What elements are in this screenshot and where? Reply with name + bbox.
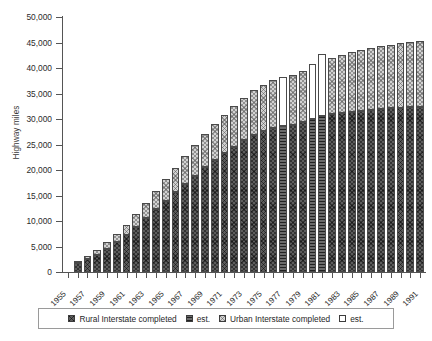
bar-segment-rural-done [289,125,297,272]
bar-segment-urban-done [132,214,140,227]
bar-segment-urban-done [201,134,209,168]
x-axis-label: 1959 [88,289,107,308]
bar-column [318,17,326,272]
x-axis-tick [273,273,274,278]
x-axis-tick [224,273,225,278]
x-axis-label: 1979 [284,289,303,308]
y-axis-tick [56,170,62,171]
legend-label: est. [197,314,210,324]
bar-segment-urban-done [338,55,346,113]
y-axis-tick [56,94,62,95]
x-axis-label: 1963 [127,289,146,308]
bar-column [299,17,307,272]
bar-segment-rural-done [328,114,336,272]
bar-column [250,17,258,272]
bar-segment-urban-done [357,50,365,111]
bar-column [142,17,150,272]
bar-segment-rural-done [123,235,131,272]
bar-segment-urban-done [240,98,248,140]
legend-swatch-rural-done [68,315,75,322]
bar-segment-rural-done [84,259,92,272]
y-axis-tick [56,17,62,18]
bar-segment-rural-done [299,122,307,272]
bar-column [230,17,238,272]
bar-segment-urban-done [142,203,150,218]
x-axis-tick [401,273,402,278]
bar-segment-urban-done [260,85,268,131]
x-axis-label: 1991 [401,289,420,308]
bar-segment-rural-done [93,255,101,272]
x-axis-label: 1989 [381,289,400,308]
legend-swatch-rural-est [186,315,193,322]
bar-segment-rural-done [162,201,170,272]
bar-segment-urban-done [328,58,336,115]
y-axis-tick [56,221,62,222]
y-axis-label: 25,000 [0,139,52,149]
bar-column [348,17,356,272]
x-axis-tick [391,273,392,278]
legend-swatch-urban-est [339,315,346,322]
bar-segment-rural-done [113,242,121,272]
x-axis-label: 1985 [342,289,361,308]
x-axis-tick [176,273,177,278]
bar-segment-urban-done [172,168,180,192]
x-axis-label: 1983 [323,289,342,308]
bar-segment-urban-done [367,48,375,110]
bar-segment-urban-done [387,45,395,108]
bar-segment-rural-done [142,218,150,272]
bar-column [152,17,160,272]
bar-segment-rural-done [181,184,189,272]
x-axis-tick [78,273,79,278]
bar-column [289,17,297,272]
x-axis-tick [283,273,284,278]
x-axis-tick [381,273,382,278]
x-axis-tick [127,273,128,278]
bar-column [211,17,219,272]
bar-segment-rural-done [152,209,160,272]
bar-column [338,17,346,272]
x-axis-tick [342,273,343,278]
bar-column [191,17,199,272]
bar-column [406,17,414,272]
x-axis-tick [264,273,265,278]
x-axis-tick [234,273,235,278]
x-axis-tick [420,273,421,278]
bar-segment-urban-done [406,42,414,107]
bar-segment-urban-est [279,77,287,126]
bar-segment-urban-done [221,115,229,153]
bar-segment-rural-done [377,109,385,272]
bar-segment-urban-done [269,80,277,127]
bar-segment-urban-done [211,124,219,160]
x-axis-label: 1965 [147,289,166,308]
bar-segment-urban-done [113,234,121,242]
bar-column [132,17,140,272]
x-axis-tick [293,273,294,278]
bar-segment-rural-done [211,160,219,272]
legend-item: Urban Interstate completed [219,314,330,324]
x-axis-label: 1981 [303,289,322,308]
bar-segment-rural-done [416,107,424,272]
bar-segment-rural-done [367,110,375,272]
bar-segment-rural-est [309,119,317,273]
legend-item: est. [339,314,363,324]
y-axis-tick [56,68,62,69]
bar-segment-rural-done [357,111,365,272]
bar-segment-urban-done [162,179,170,200]
bar-segment-rural-done [250,135,258,272]
x-axis-tick [371,273,372,278]
bar-segment-rural-est [279,126,287,272]
bar-column [309,17,317,272]
legend-label: est. [350,314,363,324]
bar-segment-urban-done [377,46,385,109]
bar-column [201,17,209,272]
bar-segment-urban-done [123,225,131,235]
bar-segment-rural-done [74,263,82,272]
bar-segment-rural-est [318,116,326,272]
x-axis-label: 1961 [108,289,127,308]
bar-segment-rural-done [387,108,395,272]
y-axis-label: 5,000 [0,241,52,251]
y-axis-tick [56,196,62,197]
bar-segment-rural-done [348,112,356,272]
bar-column [221,17,229,272]
x-axis-tick [97,273,98,278]
